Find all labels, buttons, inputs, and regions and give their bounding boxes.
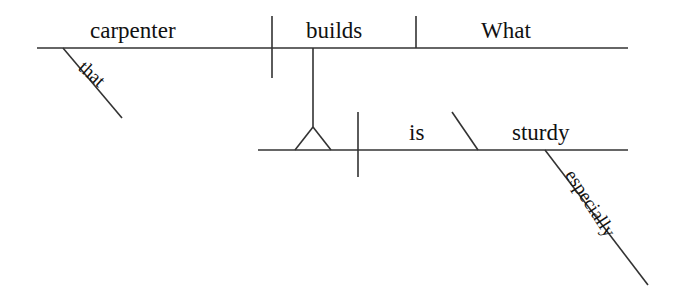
word-is: is (409, 121, 424, 144)
sentence-diagram: carpenter builds What that is sturdy esp… (0, 0, 681, 299)
pedestal-triangle-right (313, 127, 331, 150)
word-builds: builds (306, 19, 362, 42)
word-what: What (481, 19, 531, 42)
predicate-adjective-slash (452, 112, 478, 150)
pedestal-triangle-left (295, 127, 313, 150)
diagram-lines (0, 0, 681, 299)
word-sturdy: sturdy (512, 121, 570, 144)
word-carpenter: carpenter (90, 19, 176, 42)
